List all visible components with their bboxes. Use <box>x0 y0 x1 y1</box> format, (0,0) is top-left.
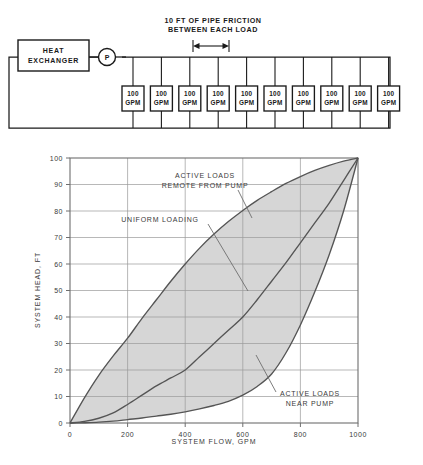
annotation-upper-line1: ACTIVE LOADS <box>175 172 235 179</box>
x-tick-label-600: 600 <box>236 431 249 438</box>
chart-svg: 02004006008001000 0102030405060708090100… <box>0 0 423 465</box>
y-tick-label-0: 0 <box>59 420 63 427</box>
x-tick-label-1000: 1000 <box>349 431 367 438</box>
annotation-lower-line2: NEAR PUMP <box>286 400 334 407</box>
annotation-lower-line1: ACTIVE LOADS <box>280 390 340 397</box>
y-tick-label-70: 70 <box>54 234 63 241</box>
y-tick-label-40: 40 <box>54 314 63 321</box>
x-axis-ticks <box>70 423 358 427</box>
x-tick-label-400: 400 <box>179 431 192 438</box>
x-axis-title: SYSTEM FLOW, GPM <box>172 438 257 445</box>
y-tick-label-30: 30 <box>54 340 63 347</box>
y-tick-label-100: 100 <box>50 155 63 162</box>
y-axis-title: SYSTEM HEAD, FT <box>34 252 41 328</box>
y-axis-ticks <box>66 158 70 423</box>
y-axis-tick-labels: 0102030405060708090100 <box>50 155 63 427</box>
x-axis-tick-labels: 02004006008001000 <box>68 431 367 438</box>
y-tick-label-10: 10 <box>54 393 63 400</box>
x-tick-label-800: 800 <box>294 431 307 438</box>
y-tick-label-90: 90 <box>54 181 63 188</box>
y-tick-label-20: 20 <box>54 367 63 374</box>
y-tick-label-60: 60 <box>54 261 63 268</box>
annotation-middle-line1: UNIFORM LOADING <box>121 216 198 223</box>
figure-root: 10 FT OF PIPE FRICTION BETWEEN EACH LOAD… <box>0 0 423 465</box>
x-tick-label-0: 0 <box>68 431 72 438</box>
y-tick-label-80: 80 <box>54 208 63 215</box>
y-tick-label-50: 50 <box>54 287 63 294</box>
annotation-upper-line2: REMOTE FROM PUMP <box>162 182 249 189</box>
x-tick-label-200: 200 <box>121 431 134 438</box>
system-curve-chart: 02004006008001000 0102030405060708090100… <box>0 0 423 465</box>
